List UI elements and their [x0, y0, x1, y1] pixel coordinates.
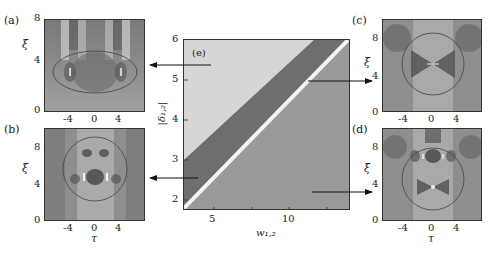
panel-c-ytick-0: 0 [372, 106, 378, 117]
panel-d-xtick-4: 4 [453, 222, 459, 233]
panel-c-plot [382, 19, 482, 112]
panel-d-plot [382, 128, 482, 221]
panel-c-ytick-4: 4 [372, 70, 378, 81]
panel-d-ylabel: ξ [364, 162, 370, 175]
panel-d-ytick-4: 4 [372, 178, 378, 189]
panel-d-label: (d) [352, 123, 368, 136]
panel-c-ytick-8: 8 [372, 32, 378, 43]
panel-c-ylabel: ξ [364, 56, 370, 69]
panel-d-ytick-8: 8 [372, 141, 378, 152]
panel-c-xtick-m4: -4 [398, 113, 408, 124]
panel-d-ytick-0: 0 [372, 214, 378, 225]
panel-c-label: (c) [352, 14, 367, 27]
panel-d-xtick-m4: -4 [398, 222, 408, 233]
panel-d-xlabel: τ [428, 232, 434, 245]
panel-c-xtick-0: 0 [428, 113, 434, 124]
panel-c-xtick-4: 4 [453, 113, 459, 124]
